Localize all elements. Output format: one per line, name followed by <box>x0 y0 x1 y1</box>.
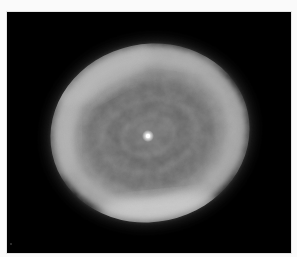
nebula-photograph <box>7 12 291 253</box>
central-star <box>146 134 150 138</box>
nebula-image <box>7 12 291 253</box>
image-canvas <box>0 0 297 257</box>
background-speck <box>10 243 12 245</box>
